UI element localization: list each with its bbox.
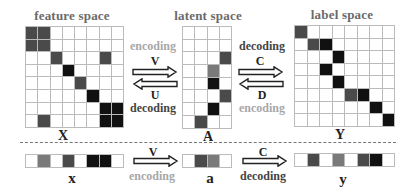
matrix-cell xyxy=(333,76,346,89)
matrix-cell xyxy=(51,27,63,40)
vector-cell xyxy=(75,155,87,168)
matrix-cell xyxy=(38,27,50,40)
matrix-cell xyxy=(63,90,75,103)
matrix-cell xyxy=(75,52,87,65)
matrix-cell xyxy=(370,89,383,102)
matrix-cell xyxy=(63,103,75,116)
matrix-cell xyxy=(51,40,63,53)
matrix-cell xyxy=(87,103,99,116)
matrix-cell xyxy=(51,65,63,78)
vector-cell xyxy=(87,155,99,168)
matrix-cell xyxy=(333,26,346,39)
matrix-cell xyxy=(195,90,207,103)
matrix-cell xyxy=(87,27,99,40)
matrix-cell xyxy=(358,26,371,39)
matrix-cell xyxy=(195,103,207,116)
latent-vector-a xyxy=(182,154,232,168)
matrix-cell xyxy=(220,103,232,116)
matrix-cell xyxy=(320,26,333,39)
divider-dashed-line xyxy=(20,142,396,143)
encoding-label-left: encoding xyxy=(130,39,176,54)
matrix-cell xyxy=(112,52,124,65)
vector-cell xyxy=(220,155,232,168)
matrix-cell xyxy=(100,65,112,78)
latent-matrix-A xyxy=(182,26,232,129)
matrix-cell xyxy=(183,103,195,116)
matrix-cell xyxy=(320,51,333,64)
vector-label-x: x xyxy=(68,170,76,187)
matrix-cell xyxy=(183,78,195,91)
feature-vector-x xyxy=(25,154,124,168)
matrix-cell xyxy=(295,51,308,64)
matrix-cell xyxy=(183,90,195,103)
matrix-cell xyxy=(295,76,308,89)
matrix-cell xyxy=(308,39,321,52)
matrix-cell xyxy=(51,77,63,90)
matrix-cell xyxy=(220,27,232,40)
matrix-cell xyxy=(220,65,232,78)
encoding-label-right: encoding xyxy=(239,101,285,116)
matrix-cell xyxy=(208,27,220,40)
matrix-cell xyxy=(87,52,99,65)
matrix-cell xyxy=(308,64,321,77)
matrix-cell xyxy=(100,77,112,90)
matrix-cell xyxy=(345,102,358,115)
matrix-cell xyxy=(358,114,371,127)
matrix-cell xyxy=(345,51,358,64)
matrix-cell xyxy=(38,90,50,103)
matrix-cell xyxy=(112,103,124,116)
vector-cell xyxy=(320,154,333,167)
matrix-cell xyxy=(183,65,195,78)
matrix-cell xyxy=(345,89,358,102)
matrix-cell xyxy=(220,78,232,91)
matrix-cell xyxy=(345,39,358,52)
matrix-cell xyxy=(87,90,99,103)
label-vector-y xyxy=(294,153,395,167)
matrix-cell xyxy=(26,103,38,116)
matrix-cell xyxy=(26,65,38,78)
matrix-cell xyxy=(308,76,321,89)
vector-cell xyxy=(100,155,112,168)
matrix-cell xyxy=(345,64,358,77)
matrix-cell xyxy=(320,89,333,102)
matrix-cell xyxy=(358,89,371,102)
matrix-cell xyxy=(295,89,308,102)
matrix-cell xyxy=(100,40,112,53)
vector-cell xyxy=(51,155,63,168)
vector-cell xyxy=(112,155,124,168)
matrix-cell xyxy=(183,40,195,53)
matrix-cell xyxy=(370,39,383,52)
vector-cell xyxy=(63,155,75,168)
matrix-cell xyxy=(183,52,195,65)
matrix-cell xyxy=(383,102,396,115)
matrix-cell xyxy=(333,89,346,102)
matrix-cell xyxy=(51,52,63,65)
matrix-cell xyxy=(195,52,207,65)
matrix-cell xyxy=(195,40,207,53)
matrix-cell xyxy=(383,89,396,102)
matrix-cell xyxy=(320,39,333,52)
matrix-cell xyxy=(208,116,220,129)
matrix-cell xyxy=(38,65,50,78)
matrix-cell xyxy=(295,114,308,127)
matrix-cell xyxy=(183,116,195,129)
vector-cell xyxy=(308,154,321,167)
matrix-cell xyxy=(383,64,396,77)
matrix-label-Y: Y xyxy=(335,127,345,143)
matrix-cell xyxy=(100,90,112,103)
matrix-cell xyxy=(308,89,321,102)
matrix-cell xyxy=(383,51,396,64)
matrix-cell xyxy=(333,102,346,115)
matrix-cell xyxy=(220,90,232,103)
matrix-cell xyxy=(308,114,321,127)
vector-cell xyxy=(183,155,195,168)
matrix-cell xyxy=(195,65,207,78)
matrix-cell xyxy=(63,27,75,40)
decoding-label-left: decoding xyxy=(130,101,176,116)
matrix-cell xyxy=(100,27,112,40)
matrix-cell xyxy=(112,27,124,40)
matrix-cell xyxy=(38,77,50,90)
matrix-cell xyxy=(308,51,321,64)
matrix-cell xyxy=(100,115,112,128)
matrix-cell xyxy=(26,77,38,90)
